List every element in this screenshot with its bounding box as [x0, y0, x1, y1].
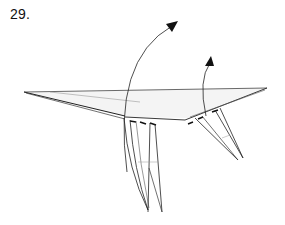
origami-diagram: [0, 0, 285, 225]
left-legs: [124, 118, 162, 212]
right-legs: [195, 108, 243, 160]
model-body: [24, 88, 267, 125]
